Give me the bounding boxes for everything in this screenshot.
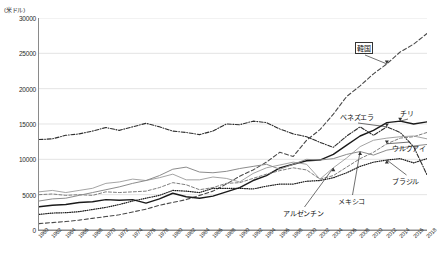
annotation-leader [305,168,336,207]
y-axis-tick-label: 5000 [2,191,36,198]
annotation-leader [385,160,407,175]
series-line [39,121,427,175]
series-annotation-label: ブラジル [392,176,419,186]
series-line [39,144,427,201]
y-axis-tick-label: 20000 [2,85,36,92]
series-annotation-label: ベネズエラ [340,112,374,122]
y-axis-tick-label: 0 [2,227,36,234]
series-line [39,34,427,224]
y-axis-tick-label: 15000 [2,121,36,128]
x-axis-tick-labels: 1960196219641966196819701972197419761978… [38,232,426,266]
series-annotation-label: アルゼンチン [283,208,324,218]
y-axis-tick-label: 30000 [2,15,36,22]
y-axis-tick-labels: 050001000015000200002500030000 [0,0,36,266]
annotation-leader [365,55,389,64]
y-axis-tick-label: 25000 [2,50,36,57]
series-annotation-label: メキシコ [338,196,365,206]
series-annotation-label: チリ [400,108,414,118]
series-annotation-label: 韓国 [355,42,373,54]
series-line [39,136,427,193]
series-annotation-label: ウルグアイ [392,143,426,153]
y-axis-tick-label: 10000 [2,156,36,163]
